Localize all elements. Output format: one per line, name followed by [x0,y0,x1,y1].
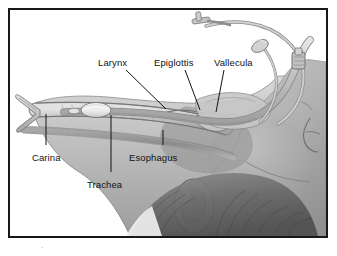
murphy-eye [69,108,80,114]
label-trachea: Trachea [87,179,122,190]
figure-endotracheal-intubation: Larynx Epiglottis Vallecula Carina Esoph… [0,0,337,256]
inflation-valve [192,12,230,25]
label-carina: Carina [32,152,61,163]
illustration-frame: Larynx Epiglottis Vallecula Carina Esoph… [8,8,328,238]
illustration-canvas [10,10,326,236]
caption-mark: · [41,245,47,250]
label-epiglottis: Epiglottis [154,57,194,68]
label-vallecula: Vallecula [214,57,253,68]
tube-cuff [81,103,111,118]
label-larynx: Larynx [98,57,127,68]
label-esophagus: Esophagus [129,152,177,163]
